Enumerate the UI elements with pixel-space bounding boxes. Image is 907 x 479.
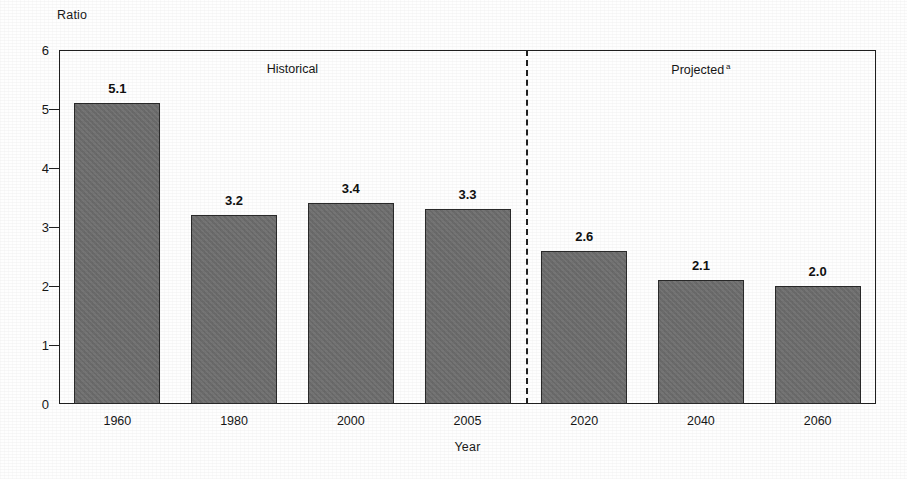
bar-value-label: 3.2 bbox=[225, 193, 243, 208]
bar bbox=[74, 103, 160, 404]
historical-period-label: Historical bbox=[267, 62, 318, 76]
y-axis-tick-label: 3 bbox=[11, 220, 49, 235]
y-axis-tick-label: 0 bbox=[11, 397, 49, 412]
projected-period-text: Projected bbox=[671, 63, 724, 77]
y-axis-tick-label: 5 bbox=[11, 102, 49, 117]
bar-value-label: 2.1 bbox=[692, 258, 710, 273]
x-axis-title-text: Year bbox=[454, 440, 480, 454]
bar bbox=[308, 203, 394, 404]
bar-value-label: 5.1 bbox=[108, 81, 126, 96]
x-axis-tick-label: 1960 bbox=[103, 414, 131, 428]
historical-projected-divider-line bbox=[526, 50, 528, 404]
bar bbox=[658, 280, 744, 404]
x-axis-tick-label: 2060 bbox=[804, 414, 832, 428]
y-axis-tick-label: 4 bbox=[11, 161, 49, 176]
bar bbox=[425, 209, 511, 404]
x-axis-title: Year bbox=[368, 440, 568, 454]
bar bbox=[775, 286, 861, 404]
y-axis-title: Ratio bbox=[57, 8, 87, 22]
projected-period-label: Projecteda bbox=[671, 62, 730, 77]
bar bbox=[191, 215, 277, 404]
bar-value-label: 2.0 bbox=[809, 264, 827, 279]
x-axis-tick-label: 2000 bbox=[337, 414, 365, 428]
projected-period-footnote-marker: a bbox=[726, 62, 730, 71]
x-axis-tick-label: 1980 bbox=[220, 414, 248, 428]
x-axis-tick-label: 2005 bbox=[454, 414, 482, 428]
bar-value-label: 3.4 bbox=[342, 181, 360, 196]
y-axis-tick-label: 6 bbox=[11, 43, 49, 58]
bar-value-label: 3.3 bbox=[458, 187, 476, 202]
bar-chart-figure: Ratio 0123456 5.13.23.43.32.62.12.0 Hist… bbox=[0, 0, 907, 479]
bar-value-label: 2.6 bbox=[575, 229, 593, 244]
historical-period-text: Historical bbox=[267, 62, 318, 76]
x-axis-tick-label: 2020 bbox=[570, 414, 598, 428]
y-axis-tick-label: 2 bbox=[11, 279, 49, 294]
y-axis-tick-label: 1 bbox=[11, 338, 49, 353]
x-axis-tick-label: 2040 bbox=[687, 414, 715, 428]
bar bbox=[541, 251, 627, 404]
